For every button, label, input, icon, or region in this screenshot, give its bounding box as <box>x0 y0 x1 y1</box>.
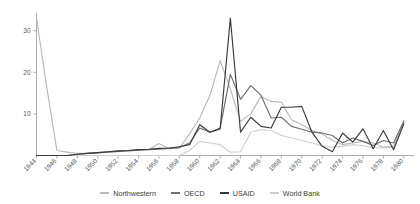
legend-label: Northwestern <box>113 189 156 198</box>
legend-dash-icon <box>171 192 180 193</box>
x-tick-label: 1952 <box>104 157 119 172</box>
x-tick-label: 1948 <box>63 157 78 172</box>
x-tick-label: 1962 <box>206 157 221 172</box>
x-tick-label: 1968 <box>267 157 282 172</box>
x-tick-label: 1944 <box>22 157 37 172</box>
x-tick-label: 1974 <box>328 157 343 172</box>
x-tick-label: 1958 <box>165 157 180 172</box>
line-chart: 102030 194419461948195019521954195619581… <box>0 0 420 204</box>
legend-item-usaid[interactable]: USAID <box>220 189 255 198</box>
y-tick-label: 20 <box>23 69 31 76</box>
x-tick-label: 1980 <box>389 157 404 172</box>
legend-item-oecd[interactable]: OECD <box>171 189 205 198</box>
x-tick-label: 1970 <box>287 157 302 172</box>
legend-dash-icon <box>100 192 109 193</box>
legend-item-northwestern[interactable]: Northwestern <box>100 189 156 198</box>
y-tick-label: 30 <box>23 27 31 34</box>
x-tick-label: 1946 <box>42 157 57 172</box>
x-axis: 1944194619481950195219541956195819601962… <box>22 156 414 173</box>
x-tick-label: 1954 <box>124 157 139 172</box>
y-axis: 102030 <box>23 13 36 156</box>
legend-label: OECD <box>184 189 205 198</box>
x-tick-label: 1960 <box>185 157 200 172</box>
series-lines <box>37 18 404 155</box>
legend-label: World Bank <box>283 189 320 198</box>
x-tick-label: 1976 <box>349 157 364 172</box>
x-tick-label: 1956 <box>144 157 159 172</box>
x-tick-label: 1966 <box>246 157 261 172</box>
x-tick-label: 1972 <box>308 157 323 172</box>
legend-dash-icon <box>270 192 279 193</box>
legend-label: USAID <box>233 189 255 198</box>
legend-dash-icon <box>220 192 229 193</box>
series-line-northwestern <box>37 18 404 153</box>
chart-plot-area: 102030 194419461948195019521954195619581… <box>0 0 420 204</box>
y-tick-label: 10 <box>23 110 31 117</box>
series-line-usaid <box>37 18 404 155</box>
x-tick-label: 1978 <box>369 157 384 172</box>
x-tick-label: 1964 <box>226 157 241 172</box>
legend-item-world-bank[interactable]: World Bank <box>270 189 320 198</box>
x-tick-label: 1950 <box>83 157 98 172</box>
chart-legend: NorthwesternOECDUSAIDWorld Bank <box>0 184 420 202</box>
